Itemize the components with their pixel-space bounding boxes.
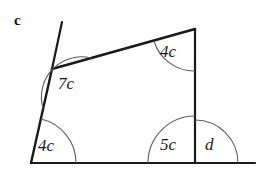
left-edge-ray-extension	[52, 22, 62, 69]
angle-label-4c-top-right: 4c	[160, 43, 176, 60]
part-label: c	[14, 13, 21, 28]
angle-label-5c: 5c	[160, 136, 176, 153]
angle-label-d: d	[205, 136, 214, 153]
angle-label-7c: 7c	[58, 75, 74, 92]
angle-arc-d	[195, 120, 238, 163]
geometry-figure: c 7c 4c 4c 5c d	[0, 0, 269, 173]
angle-label-4c-bottom-left: 4c	[38, 137, 54, 154]
